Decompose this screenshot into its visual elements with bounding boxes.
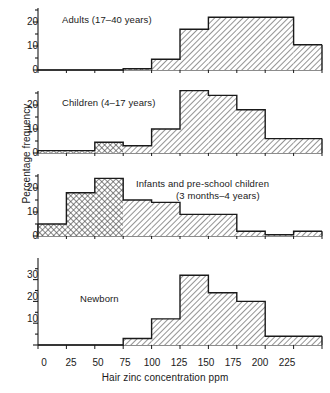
histogram-canvas xyxy=(0,0,330,393)
histogram-figure: Percentage frequency Hair zinc concentra… xyxy=(0,0,330,393)
